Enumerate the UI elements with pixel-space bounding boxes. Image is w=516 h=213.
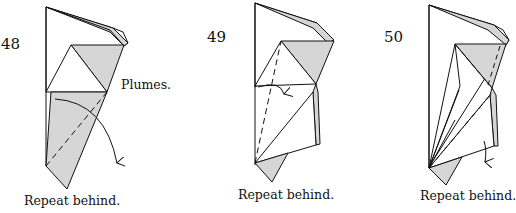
step-50-diagram	[429, 5, 509, 185]
step-caption: Repeat behind.	[420, 188, 516, 203]
step-number: 50	[384, 28, 403, 46]
step-number: 48	[1, 35, 20, 53]
step-note: Plumes.	[121, 77, 171, 92]
step-caption: Repeat behind.	[24, 193, 120, 208]
step-number: 49	[207, 28, 226, 46]
step-49-diagram	[255, 3, 334, 182]
step-48-diagram	[46, 7, 128, 189]
step-caption: Repeat behind.	[238, 187, 334, 202]
